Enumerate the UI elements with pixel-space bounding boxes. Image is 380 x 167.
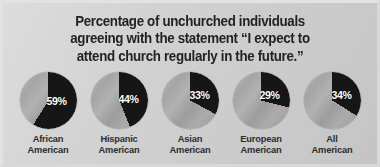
pie-category-label-line-2: American bbox=[240, 145, 281, 156]
figure-canvas: Percentage of unchurched individuals agr… bbox=[3, 3, 377, 164]
pie-chart-1: 59% bbox=[20, 72, 77, 129]
pie-chart-cell: 33%AsianAmerican bbox=[156, 72, 224, 157]
pie-category-label-line-1: All bbox=[326, 134, 337, 144]
pie-category-label-line-2: American bbox=[312, 145, 353, 156]
pie-category-label-line-1: European bbox=[240, 134, 281, 144]
pie-chart-2: 44% bbox=[91, 72, 148, 129]
pie-category-label: AllAmerican bbox=[312, 134, 353, 157]
chart-title-line-3: attend church regularly in the future.” bbox=[22, 48, 359, 65]
pie-chart-group: 59%AfricanAmerican44%HispanicAmerican33%… bbox=[14, 72, 366, 164]
chart-title-line-2: agreeing with the statement “I expect to bbox=[22, 30, 359, 47]
pie-category-label-line-2: American bbox=[170, 145, 211, 156]
pie-category-label: HispanicAmerican bbox=[99, 134, 140, 157]
chart-title-line-1: Percentage of unchurched individuals bbox=[22, 13, 359, 30]
pie-chart-4: 29% bbox=[233, 72, 290, 129]
pie-category-label-line-1: Asian bbox=[178, 134, 202, 144]
pie-value-label: 29% bbox=[260, 90, 280, 101]
pie-category-label-line-2: American bbox=[28, 145, 69, 156]
pie-chart-cell: 34%AllAmerican bbox=[298, 72, 366, 157]
chart-title: Percentage of unchurched individuals agr… bbox=[22, 13, 359, 65]
pie-chart-cell: 29%EuropeanAmerican bbox=[227, 72, 295, 157]
pie-category-label-line-1: Hispanic bbox=[100, 134, 137, 144]
pie-value-label: 34% bbox=[332, 90, 352, 101]
pie-category-label-line-2: American bbox=[99, 145, 140, 156]
pie-chart-cell: 44%HispanicAmerican bbox=[85, 72, 153, 157]
pie-chart-5: 34% bbox=[304, 72, 361, 129]
pie-value-label: 33% bbox=[190, 90, 210, 101]
pie-value-label: 59% bbox=[47, 96, 67, 107]
pie-category-label-line-1: African bbox=[33, 134, 64, 144]
pie-chart-3: 33% bbox=[162, 72, 219, 129]
pie-category-label: EuropeanAmerican bbox=[240, 134, 281, 157]
pie-category-label: AfricanAmerican bbox=[28, 134, 69, 157]
pie-chart-figure: Percentage of unchurched individuals agr… bbox=[0, 0, 380, 167]
pie-value-label: 44% bbox=[119, 94, 139, 105]
pie-chart-cell: 59%AfricanAmerican bbox=[14, 72, 82, 157]
pie-category-label: AsianAmerican bbox=[170, 134, 211, 157]
